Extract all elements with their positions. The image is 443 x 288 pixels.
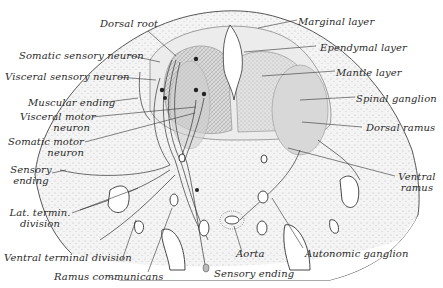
label-mantle-layer: Mantle layer [336,67,402,78]
label-somatic-motor-neuron: Somatic motor neuron [8,136,84,158]
label-ependymal-layer: Ependymal layer [320,42,407,53]
label-visceral-motor-neuron-line1: Visceral motor [20,111,90,122]
label-ventral-ramus-line2: ramus [394,182,440,193]
diagram-canvas: Dorsal root Somatic sensory neuron Visce… [0,0,443,288]
label-somatic-motor-neuron-line1: Somatic motor [8,136,84,147]
label-sensory-ending-left: Sensory ending [10,164,52,186]
label-spinal-ganglion: Spinal ganglion [356,93,437,104]
label-sensory-ending-left-line1: Sensory [10,164,52,175]
label-visceral-sensory-neuron: Visceral sensory neuron [5,71,130,82]
label-sensory-ending-bottom: Sensory ending [214,268,294,279]
label-lat-termin-division-line2: division [6,218,74,229]
label-visceral-motor-neuron-line2: neuron [20,122,90,133]
label-lat-termin-division-line1: Lat. termin. [6,207,74,218]
label-autonomic-ganglion: Autonomic ganglion [305,248,409,259]
label-aorta: Aorta [236,248,265,259]
label-somatic-sensory-neuron: Somatic sensory neuron [19,50,144,61]
label-lat-termin-division: Lat. termin. division [6,207,74,229]
label-dorsal-root: Dorsal root [100,18,158,29]
label-dorsal-ramus: Dorsal ramus [366,122,435,133]
label-sensory-ending-left-line2: ending [10,175,52,186]
label-somatic-motor-neuron-line2: neuron [8,147,84,158]
label-marginal-layer: Marginal layer [298,16,374,27]
label-ventral-terminal-division: Ventral terminal division [4,252,132,263]
label-ramus-communicans: Ramus communicans [54,271,163,282]
aorta-vessel [225,216,239,224]
label-ventral-ramus: Ventral ramus [394,171,440,193]
label-muscular-ending: Muscular ending [28,97,115,108]
label-visceral-motor-neuron: Visceral motor neuron [20,111,90,133]
label-ventral-ramus-line1: Ventral [394,171,440,182]
